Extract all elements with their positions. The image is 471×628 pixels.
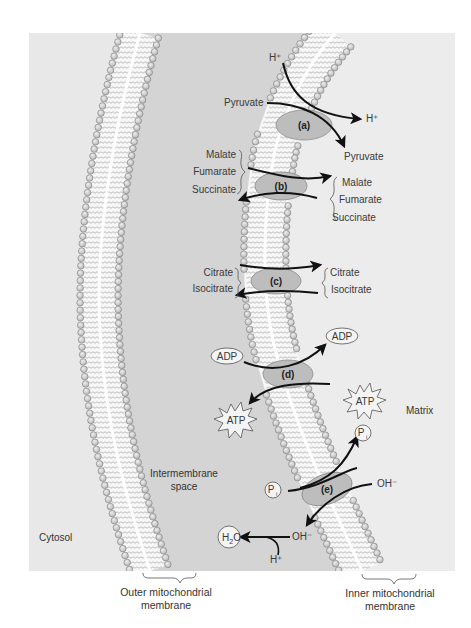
svg-text:ATP: ATP: [356, 396, 375, 407]
label-a-h-plus-in: H⁺: [269, 52, 281, 63]
outer-membrane-brace: [143, 573, 196, 583]
adp-in-badge: ADP: [211, 348, 243, 364]
svg-text:P: P: [358, 427, 365, 438]
pi-out-badge: P i: [355, 425, 371, 441]
transporter-e-label: (e): [321, 484, 333, 495]
transporter-a: (a): [276, 110, 332, 140]
inner-membrane-brace: [362, 574, 416, 584]
label-b-malate-in: Malate: [206, 149, 236, 160]
inner-membrane-caption-2: membrane: [365, 600, 415, 612]
region-label-intermembrane-2: space: [171, 481, 198, 492]
label-c-citrate-in: Citrate: [204, 267, 234, 278]
label-b-malate-out: Malate: [342, 177, 372, 188]
transporter-c-label: (c): [270, 276, 282, 287]
svg-text:ATP: ATP: [227, 415, 246, 426]
svg-text:i: i: [366, 434, 367, 440]
svg-text:ADP: ADP: [332, 331, 353, 342]
region-label-matrix: Matrix: [406, 405, 433, 416]
outer-membrane-caption-1: Outer mitochondrial: [120, 586, 212, 598]
label-b-succinate-out: Succinate: [332, 212, 376, 223]
adp-out-badge: ADP: [326, 328, 358, 344]
label-a-pyruvate-out: Pyruvate: [344, 151, 384, 162]
label-c-citrate-out: Citrate: [330, 267, 360, 278]
svg-text:i: i: [276, 491, 277, 497]
label-e-oh-in: OH⁻: [377, 478, 397, 489]
label-b-fumarate-out: Fumarate: [339, 194, 382, 205]
transporter-a-label: (a): [298, 120, 310, 131]
label-b-fumarate-in: Fumarate: [193, 166, 236, 177]
region-label-cytosol: Cytosol: [39, 532, 72, 543]
label-h-plus-ims: H⁺: [270, 554, 282, 565]
label-a-h-plus-out: H⁺: [366, 113, 378, 124]
transporter-d-label: (d): [282, 369, 295, 380]
inner-membrane-caption-1: Inner mitochondrial: [345, 587, 434, 599]
mitochondrial-membrane-transport-diagram: (a) (b) (c) (d) (e): [0, 0, 471, 628]
label-a-pyruvate-in: Pyruvate: [224, 97, 264, 108]
transporter-b-label: (b): [275, 181, 288, 192]
label-b-succinate-in: Succinate: [192, 184, 236, 195]
outer-membrane-caption-2: membrane: [141, 599, 191, 611]
region-label-intermembrane-1: Intermembrane: [150, 468, 218, 479]
svg-text:ADP: ADP: [217, 351, 238, 362]
svg-text:P: P: [268, 484, 275, 495]
label-c-isocitrate-in: Isocitrate: [192, 283, 233, 294]
label-c-isocitrate-out: Isocitrate: [331, 284, 372, 295]
label-e-oh-out: OH⁻: [292, 531, 312, 542]
pi-in-badge: P i: [265, 482, 281, 498]
